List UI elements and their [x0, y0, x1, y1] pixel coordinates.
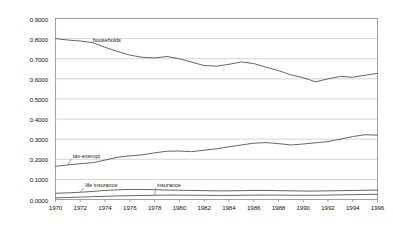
y-axis-tick-label: 0.8000: [14, 35, 48, 42]
x-axis-tick-label: 1992: [315, 204, 341, 211]
y-axis-tick-label: 0.9000: [14, 15, 48, 22]
x-axis-tick-label: 1990: [290, 204, 316, 211]
y-axis-tick-label: 0.1000: [14, 176, 48, 183]
line-chart: 0.00000.10000.20000.30000.40000.50000.60…: [0, 0, 393, 229]
x-axis-tick-label: 1972: [67, 204, 93, 211]
x-axis-tick-label: 1974: [92, 204, 118, 211]
series-lines: [56, 39, 378, 198]
plot-frame: [56, 19, 378, 200]
series-label-households: households: [93, 37, 121, 43]
y-axis-tick-label: 0.4000: [14, 116, 48, 123]
x-axis-tick-label: 1988: [265, 204, 291, 211]
annotation-leader-lines: [68, 42, 156, 195]
gridlines: [56, 19, 378, 180]
x-axis-tick-label: 1978: [142, 204, 168, 211]
y-axis-tick-label: 0.6000: [14, 75, 48, 82]
x-axis-tick-label: 1986: [241, 204, 267, 211]
series-label-tax-exempt: tax-exempt: [73, 153, 100, 159]
x-axis-tick-label: 1976: [117, 204, 143, 211]
series-label-insurance: insurance: [157, 182, 181, 188]
y-axis-tick-label: 0.3000: [14, 136, 48, 143]
x-axis-tick-label: 1996: [365, 204, 391, 211]
y-axis-tick-label: 0.2000: [14, 156, 48, 163]
plot-area: [0, 0, 393, 229]
x-axis-tick-label: 1994: [340, 204, 366, 211]
x-axis-tick-label: 1980: [166, 204, 192, 211]
y-axis-tick-label: 0.7000: [14, 55, 48, 62]
x-axis-tick-label: 1970: [43, 204, 69, 211]
x-axis-tick-label: 1984: [216, 204, 242, 211]
y-axis-tick-label: 0.0000: [14, 196, 48, 203]
y-axis-tick-label: 0.5000: [14, 95, 48, 102]
series-label-life-insurance: life insurance: [85, 182, 117, 188]
x-axis-tick-label: 1982: [191, 204, 217, 211]
